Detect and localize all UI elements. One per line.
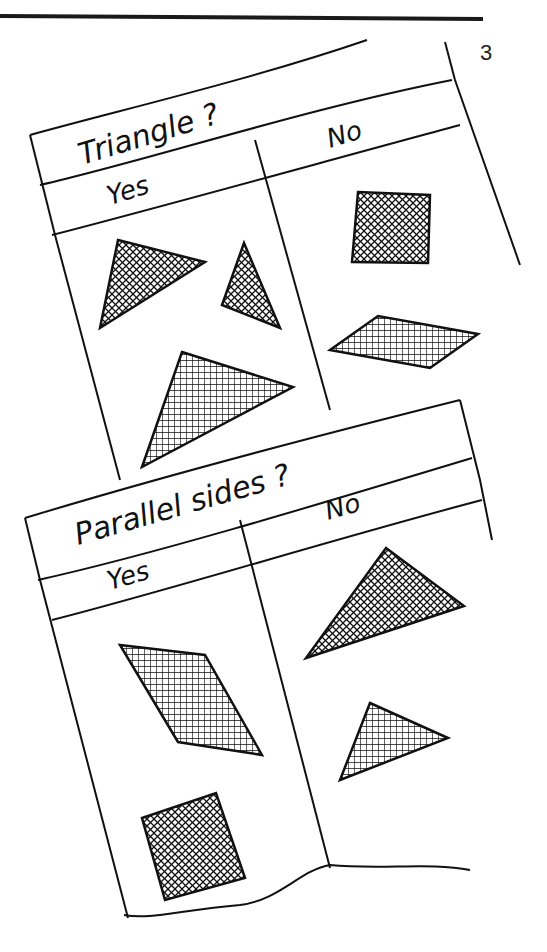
triangle-shape	[100, 240, 205, 328]
table1-shapes	[100, 192, 478, 467]
table2-yes-label: Yes	[103, 555, 152, 596]
page-number: 3	[480, 40, 492, 65]
sorting-table-triangle	[30, 40, 520, 480]
triangle-shape	[340, 703, 448, 780]
parallelogram-shape	[120, 645, 262, 755]
top-rule	[0, 16, 483, 19]
square-shape	[352, 192, 430, 263]
table1-yes-label: Yes	[103, 170, 152, 211]
table1-no-label: No	[323, 115, 366, 154]
triangle-shape	[222, 243, 280, 328]
rhombus-shape	[330, 316, 478, 368]
triangle-shape	[306, 548, 464, 658]
square-shape	[142, 793, 245, 900]
table2-question: Parallel sides ?	[70, 457, 294, 552]
diagram-canvas: 3 Triangle ? Yes No Parallel sides ? Yes…	[0, 0, 547, 952]
table1-question: Triangle ?	[74, 96, 223, 172]
